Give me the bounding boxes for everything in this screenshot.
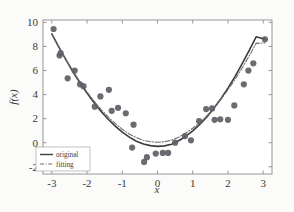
- y-tick-label: 6: [33, 64, 39, 76]
- data-point: [231, 102, 237, 108]
- y-tick-label: 4: [33, 88, 39, 100]
- data-point: [92, 104, 98, 110]
- data-point: [130, 122, 136, 128]
- data-point: [250, 60, 256, 66]
- x-axis-title: x: [154, 183, 160, 195]
- data-point: [80, 83, 86, 89]
- data-point: [211, 117, 217, 123]
- x-tick-label: -2: [82, 177, 91, 189]
- data-point: [72, 67, 78, 73]
- legend-label-fitting: fitting: [56, 161, 74, 169]
- x-tick-label: -1: [118, 177, 127, 189]
- data-point: [109, 108, 115, 114]
- data-point: [129, 144, 135, 150]
- data-point: [217, 116, 223, 122]
- data-point: [65, 75, 71, 81]
- y-tick-label: 2: [33, 112, 39, 124]
- data-point: [160, 150, 166, 156]
- data-point: [203, 106, 209, 112]
- x-tick-label: -3: [47, 177, 57, 189]
- y-tick-label: 8: [33, 40, 39, 52]
- data-point: [182, 133, 188, 139]
- data-point: [106, 87, 112, 93]
- data-point: [144, 154, 150, 160]
- data-point: [209, 105, 215, 111]
- data-point: [241, 81, 247, 87]
- data-point: [245, 67, 251, 73]
- x-tick-label: 1: [190, 177, 196, 189]
- data-point: [115, 105, 121, 111]
- x-tick-label: 3: [260, 177, 266, 189]
- data-point: [165, 150, 171, 156]
- data-point: [153, 150, 159, 156]
- scatter-fitting-chart: -3-2-10123 -20246810 x f(x) original fit…: [0, 0, 294, 212]
- data-point: [196, 118, 202, 124]
- data-point: [123, 110, 129, 116]
- y-tick-label: 10: [27, 16, 39, 28]
- data-point: [172, 140, 178, 146]
- y-axis-title: f(x): [7, 89, 20, 105]
- data-point: [97, 93, 103, 99]
- x-tick-label: 2: [225, 177, 231, 189]
- data-point: [225, 117, 231, 123]
- data-point: [50, 26, 56, 32]
- data-point: [262, 36, 268, 42]
- data-point: [188, 137, 194, 143]
- legend-label-original: original: [56, 151, 78, 159]
- data-point: [58, 50, 64, 56]
- legend: original fitting: [36, 147, 90, 171]
